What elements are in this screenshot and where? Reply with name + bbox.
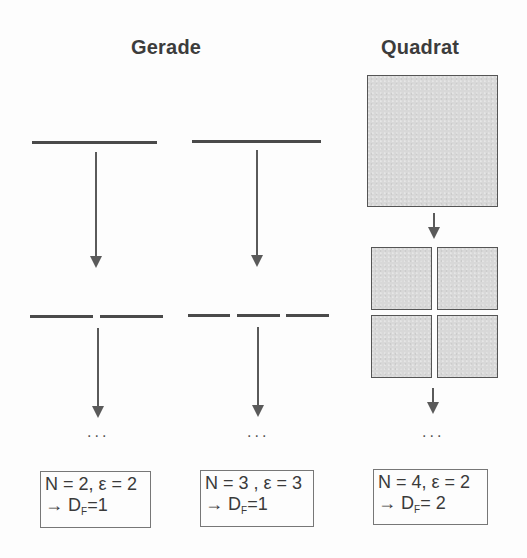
- result-dimension: → DF= 2: [378, 493, 483, 520]
- arrow-down-icon: [428, 227, 440, 239]
- dimension-value: =1: [247, 494, 268, 514]
- full-line-segment: [32, 141, 157, 144]
- third-segment-1: [188, 314, 230, 317]
- half-segment-1: [30, 315, 93, 318]
- arrow-shaft: [256, 150, 258, 255]
- full-square: [367, 75, 498, 207]
- arrow-shaft: [95, 152, 97, 256]
- quarter-square-bottom-left: [371, 315, 432, 378]
- arrow-down-icon: [251, 255, 263, 267]
- result-box: N = 3 , ε = 3 → DF=1: [200, 470, 314, 527]
- dimension-symbol: D: [228, 494, 241, 514]
- result-dimension: → DF=1: [45, 495, 146, 522]
- result-box: N = 4, ε = 2 → DF= 2: [373, 469, 488, 525]
- arrow-shaft: [432, 388, 434, 402]
- continuation-dots: ...: [87, 423, 109, 441]
- result-params: N = 4, ε = 2: [378, 472, 483, 493]
- quarter-square-bottom-right: [437, 315, 498, 378]
- title-line: Gerade: [131, 36, 201, 59]
- result-params: N = 3 , ε = 3: [205, 473, 309, 494]
- arrow-shaft: [433, 213, 435, 227]
- half-segment-2: [100, 315, 163, 318]
- quarter-square-top-left: [371, 247, 432, 310]
- quarter-square-top-right: [437, 247, 498, 310]
- arrow-down-icon: [92, 406, 104, 418]
- arrow-shaft: [97, 328, 99, 406]
- arrow-right-icon: →: [378, 493, 396, 513]
- dimension-symbol: D: [401, 493, 414, 513]
- full-line-segment: [192, 140, 321, 143]
- third-segment-3: [286, 314, 329, 317]
- arrow-right-icon: →: [205, 494, 223, 514]
- arrow-down-icon: [90, 256, 102, 268]
- title-square: Quadrat: [381, 36, 459, 59]
- arrow-right-icon: →: [45, 495, 63, 515]
- dimension-value: = 2: [420, 493, 446, 513]
- continuation-dots: ...: [247, 423, 269, 441]
- arrow-shaft: [257, 327, 259, 405]
- third-segment-2: [237, 314, 280, 317]
- continuation-dots: ...: [422, 423, 444, 441]
- result-params: N = 2, ε = 2: [45, 474, 146, 495]
- dimension-value: =1: [87, 495, 108, 515]
- dimension-symbol: D: [68, 495, 81, 515]
- result-dimension: → DF=1: [205, 494, 309, 521]
- arrow-down-icon: [427, 402, 439, 414]
- arrow-down-icon: [252, 405, 264, 417]
- result-box: N = 2, ε = 2 → DF=1: [40, 471, 151, 528]
